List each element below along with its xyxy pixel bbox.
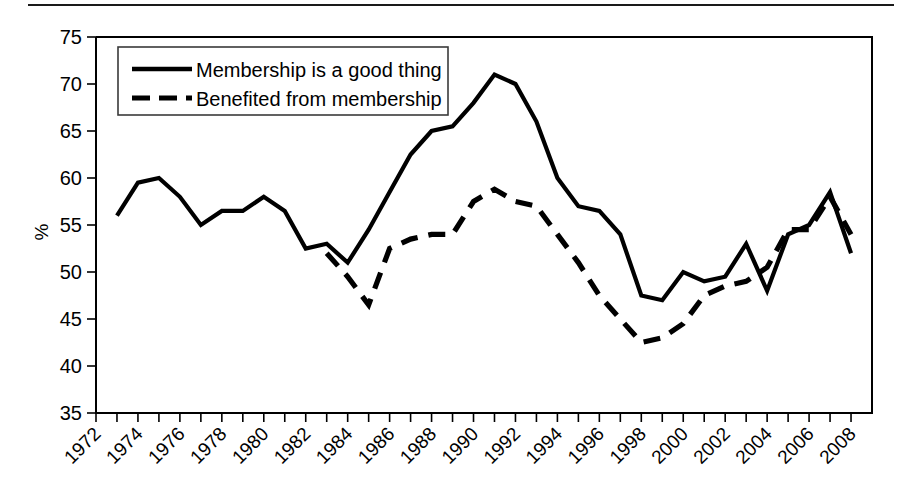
- x-tick-label: 1988: [396, 423, 441, 468]
- legend-label-dashed: Benefited from membership: [196, 88, 442, 110]
- x-tick-label: 2000: [647, 423, 692, 468]
- series-benefited-from-membership: [327, 189, 851, 342]
- x-tick-label: 1978: [186, 423, 231, 468]
- y-tick-label: 50: [60, 261, 82, 283]
- x-tick-label: 1994: [521, 423, 566, 468]
- y-tick-label: 70: [60, 73, 82, 95]
- y-tick-label: 40: [60, 355, 82, 377]
- x-tick-label: 1974: [102, 423, 147, 468]
- x-tick-label: 2008: [815, 423, 860, 468]
- x-tick-label: 1980: [228, 423, 273, 468]
- x-axis-ticks: [96, 413, 851, 422]
- y-axis-title: %: [31, 223, 52, 240]
- line-chart: 354045505560657075 % 1972197419761978198…: [0, 0, 901, 486]
- x-tick-label: 1990: [438, 423, 483, 468]
- y-tick-label: 65: [60, 120, 82, 142]
- x-tick-label: 1996: [563, 423, 608, 468]
- y-axis-labels: 354045505560657075: [60, 26, 82, 424]
- y-tick-label: 55: [60, 214, 82, 236]
- y-tick-label: 45: [60, 308, 82, 330]
- x-tick-label: 1992: [480, 423, 525, 468]
- chart-svg: 354045505560657075 % 1972197419761978198…: [0, 0, 901, 486]
- x-tick-label: 1986: [354, 423, 399, 468]
- legend-label-solid: Membership is a good thing: [196, 59, 442, 81]
- y-tick-label: 35: [60, 402, 82, 424]
- x-tick-label: 2004: [731, 423, 776, 468]
- chart-page: 354045505560657075 % 1972197419761978198…: [0, 0, 901, 486]
- x-axis-labels: 1972197419761978198019821984198619881990…: [60, 423, 860, 468]
- x-tick-label: 2002: [689, 423, 734, 468]
- x-tick-label: 1984: [312, 423, 357, 468]
- y-tick-label: 75: [60, 26, 82, 48]
- x-tick-label: 2006: [773, 423, 818, 468]
- y-axis-ticks: [87, 37, 96, 413]
- x-tick-label: 1982: [270, 423, 315, 468]
- x-tick-label: 1976: [144, 423, 189, 468]
- x-tick-label: 1972: [60, 423, 105, 468]
- x-tick-label: 1998: [605, 423, 650, 468]
- chart-legend: Membership is a good thing Benefited fro…: [118, 47, 448, 115]
- y-tick-label: 60: [60, 167, 82, 189]
